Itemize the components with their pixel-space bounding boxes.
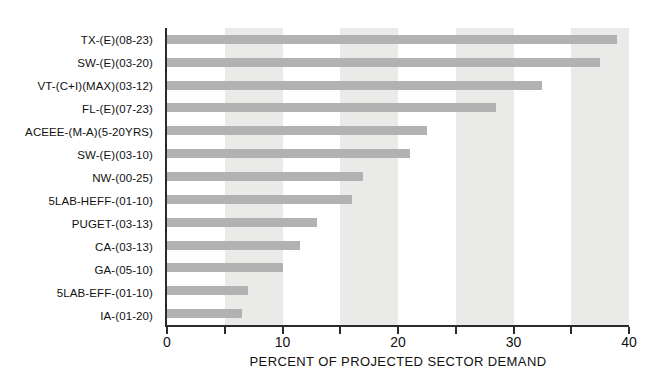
bar-chart-figure: TX-(E)(08-23)SW-(E)(03-20)VT-(C+I)(MAX)(… [0,0,653,381]
x-axis-tick-label: 20 [390,334,406,350]
bar-row [167,142,629,165]
bar [167,172,363,181]
bar-row [167,211,629,234]
bar [167,126,427,135]
plot-area [165,28,629,327]
x-axis-tick [570,327,572,334]
bar-row [167,119,629,142]
category-label: 5LAB-HEFF-(01-10) [0,189,160,212]
category-label: SW-(E)(03-10) [0,143,160,166]
x-axis-tick [224,327,226,334]
category-label: VT-(C+I)(MAX)(03-12) [0,74,160,97]
bar [167,35,617,44]
category-label: NW-(00-25) [0,166,160,189]
x-axis-tick [282,327,284,334]
bar [167,286,248,295]
category-label: IA-(01-20) [0,304,160,327]
bar [167,218,317,227]
bar-row [167,97,629,120]
category-label: 5LAB-EFF-(01-10) [0,281,160,304]
x-axis-tick [455,327,457,334]
category-labels: TX-(E)(08-23)SW-(E)(03-20)VT-(C+I)(MAX)(… [0,28,160,327]
x-axis-tick [339,327,341,334]
bar [167,263,283,272]
x-axis-tick-label: 0 [163,334,171,350]
bar [167,195,352,204]
x-axis-tick-label: 30 [506,334,522,350]
category-label: PUGET-(03-13) [0,212,160,235]
bar-row [167,165,629,188]
bar [167,241,300,250]
bar-row [167,188,629,211]
category-label: FL-(E)(07-23) [0,97,160,120]
category-label: ACEEE-(M-A)(5-20YRS) [0,120,160,143]
x-axis-tick-label: 40 [621,334,637,350]
x-axis-tick [628,327,630,334]
bar-layer [167,28,629,325]
bar-row [167,51,629,74]
bar-row [167,234,629,257]
bar [167,58,600,67]
x-axis-tick-label: 10 [275,334,291,350]
bar-row [167,256,629,279]
bar-row [167,302,629,325]
x-axis-tick [166,327,168,334]
tick-labels: 010203040 [167,334,629,351]
bar-row [167,28,629,51]
bar [167,309,242,318]
bar [167,81,542,90]
x-axis-tick [397,327,399,334]
x-axis-title: PERCENT OF PROJECTED SECTOR DEMAND [167,354,629,369]
bar-row [167,74,629,97]
bar-row [167,279,629,302]
category-label: TX-(E)(08-23) [0,28,160,51]
category-label: GA-(05-10) [0,258,160,281]
tick-layer [167,327,629,334]
category-label: CA-(03-13) [0,235,160,258]
bar [167,149,410,158]
bar [167,103,496,112]
category-label: SW-(E)(03-20) [0,51,160,74]
x-axis-tick [513,327,515,334]
